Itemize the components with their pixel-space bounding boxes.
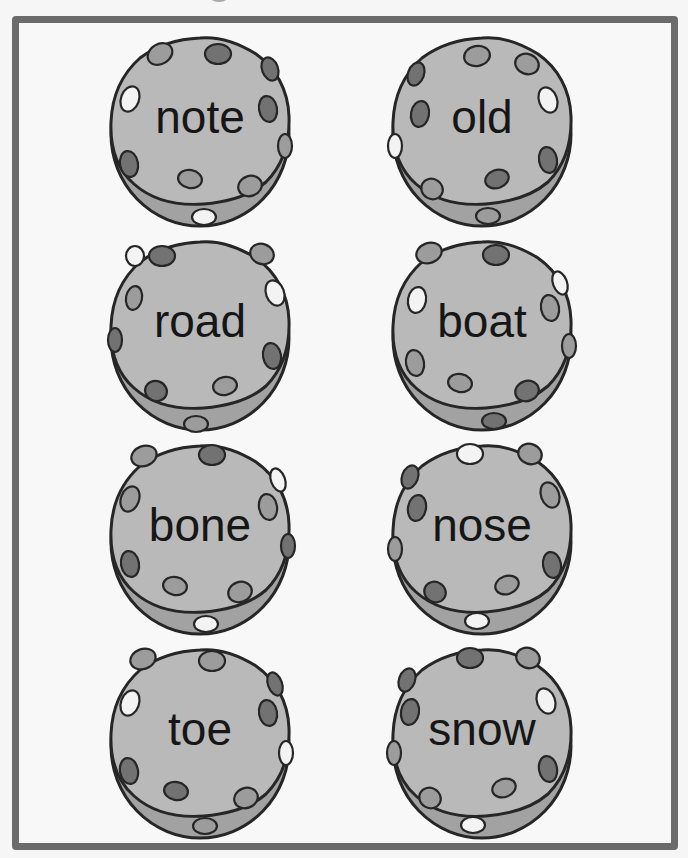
chip-spot-icon [199, 651, 225, 671]
cookie-word: nose [382, 502, 582, 548]
chip-spot-icon [193, 818, 217, 834]
chip-spot-icon [192, 209, 216, 225]
chip-spot-icon [476, 208, 500, 224]
cookie-word: old [382, 94, 582, 140]
cookie-word: snow [382, 706, 582, 752]
cookie-card-nose[interactable]: nose [382, 432, 582, 642]
cookie-word: toe [100, 706, 300, 752]
chip-spot-icon [199, 445, 225, 465]
chip-spot-icon [457, 444, 483, 464]
cookie-card-road[interactable]: road [100, 228, 300, 438]
cookie-word: road [100, 298, 300, 344]
chip-spot-icon [457, 648, 483, 668]
cookie-card-note[interactable]: note [100, 24, 300, 234]
chip-spot-icon [126, 246, 144, 266]
chip-spot-icon [461, 817, 485, 833]
chip-spot-icon [483, 245, 509, 265]
chip-spot-icon [194, 616, 218, 632]
cookie-card-toe[interactable]: toe [100, 636, 300, 846]
cookie-card-bone[interactable]: bone [100, 432, 300, 642]
partial-cookie-edge [208, 0, 230, 2]
chip-spot-icon [465, 613, 489, 629]
chip-spot-icon [184, 416, 208, 432]
chip-spot-icon [482, 413, 506, 429]
cookie-word: boat [382, 298, 582, 344]
chip-spot-icon [149, 246, 175, 266]
chip-spot-icon [205, 44, 231, 64]
cookie-card-boat[interactable]: boat [382, 228, 582, 438]
cookie-card-old[interactable]: old [382, 24, 582, 234]
cookie-word: bone [100, 502, 300, 548]
cookie-card-snow[interactable]: snow [382, 636, 582, 846]
cookie-word: note [100, 94, 300, 140]
